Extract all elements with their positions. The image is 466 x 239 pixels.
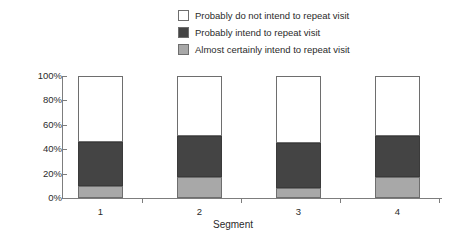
- bar-segment-4[interactable]: [375, 76, 420, 198]
- y-axis-line: [62, 76, 63, 199]
- y-tick-80: 80%: [6, 95, 62, 105]
- y-tick-100: 100%: [6, 71, 62, 81]
- stacked-bar-chart: 100% 80% 60% 40% 20% 0%: [0, 0, 466, 239]
- bar-4-seg-almost-certainly-intend[interactable]: [375, 177, 420, 198]
- bar-4-seg-probably-intend[interactable]: [375, 136, 420, 177]
- x-tick-mark-1: [142, 198, 143, 203]
- bar-2-seg-almost-certainly-intend[interactable]: [177, 177, 222, 198]
- y-tick-0: 0%: [6, 193, 62, 203]
- y-tick-mark-20: [62, 174, 67, 175]
- y-tick-mark-100: [62, 76, 67, 77]
- x-axis-title: Segment: [0, 219, 466, 230]
- x-tick-label-4: 4: [375, 206, 420, 218]
- x-tick-label-3: 3: [276, 206, 321, 218]
- bar-3-seg-probably-do-not-intend[interactable]: [276, 76, 321, 143]
- bar-3-seg-probably-intend[interactable]: [276, 143, 321, 188]
- y-tick-mark-40: [62, 149, 67, 150]
- x-tick-mark-3: [340, 198, 341, 203]
- bar-segment-2[interactable]: [177, 76, 222, 198]
- bar-2-seg-probably-intend[interactable]: [177, 136, 222, 177]
- bar-2-seg-probably-do-not-intend[interactable]: [177, 76, 222, 136]
- y-tick-mark-60: [62, 125, 67, 126]
- x-tick-mark-2: [241, 198, 242, 203]
- x-tick-mark-4: [439, 198, 440, 203]
- y-tick-60: 60%: [6, 120, 62, 130]
- bar-segment-3[interactable]: [276, 76, 321, 198]
- x-tick-label-1: 1: [78, 206, 123, 218]
- bar-segment-1[interactable]: [78, 76, 123, 198]
- bar-1-seg-probably-do-not-intend[interactable]: [78, 76, 123, 142]
- bar-1-seg-almost-certainly-intend[interactable]: [78, 186, 123, 198]
- bar-4-seg-probably-do-not-intend[interactable]: [375, 76, 420, 136]
- bar-3-seg-almost-certainly-intend[interactable]: [276, 188, 321, 198]
- y-tick-mark-80: [62, 100, 67, 101]
- x-axis-line: [62, 198, 442, 199]
- y-tick-20: 20%: [6, 169, 62, 179]
- x-tick-label-2: 2: [177, 206, 222, 218]
- bar-1-seg-probably-intend[interactable]: [78, 142, 123, 186]
- y-tick-40: 40%: [6, 144, 62, 154]
